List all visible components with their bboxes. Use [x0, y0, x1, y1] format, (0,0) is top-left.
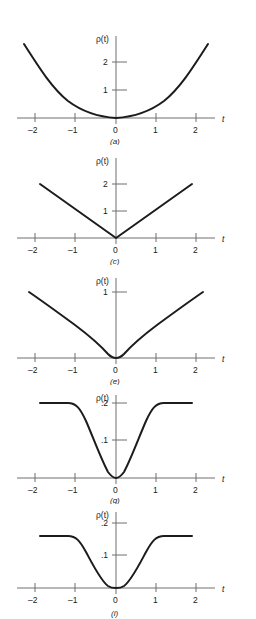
x-ticklabel-2-c: 2	[193, 245, 198, 255]
y-ticklabel-1-e: 1	[103, 287, 108, 297]
x-axis-label-e: t	[222, 354, 225, 364]
x-axis-label-i: t	[222, 584, 225, 594]
rho-functions-figure: ρ(t) t –2 –1 0 1 2 1 2 (a) ρ(t) t –2	[0, 0, 256, 619]
x-ticklabel-minus1-i: –1	[68, 595, 78, 605]
x-ticklabel-minus1-c: –1	[68, 245, 78, 255]
chart-panel-a: ρ(t) t –2 –1 0 1 2 1 2 (a)	[0, 0, 256, 145]
y-ticklabel-point2-i: .2	[101, 518, 108, 528]
x-ticklabel-minus2-a: –2	[28, 125, 38, 135]
x-ticklabel-minus1-a: –1	[68, 125, 78, 135]
x-axis-label-g: t	[222, 474, 225, 484]
x-ticklabel-2-e: 2	[193, 365, 198, 375]
x-ticklabel-1-e: 1	[153, 365, 158, 375]
y-axis-label-a: ρ(t)	[96, 34, 109, 44]
panel-caption-i: (i)	[111, 609, 118, 618]
x-ticklabel-1-a: 1	[153, 125, 158, 135]
chart-panel-g: ρ(t) t –2 –1 0 1 2 .1 .2 (g)	[0, 385, 256, 504]
x-ticklabel-minus2-c: –2	[28, 245, 38, 255]
x-ticklabel-1-c: 1	[153, 245, 158, 255]
x-ticklabel-2-g: 2	[193, 485, 198, 495]
x-ticklabel-0-e: 0	[113, 365, 118, 375]
x-axis-label-a: t	[222, 114, 225, 124]
panel-caption-e: (e)	[110, 377, 120, 385]
panel-caption-c: (c)	[110, 257, 120, 265]
panel-caption-g: (g)	[110, 496, 120, 504]
chart-panel-e: ρ(t) t –2 –1 0 1 2 1 (e)	[0, 265, 256, 385]
chart-panel-i: ρ(t) t –2 –1 0 1 2 .1 .2 (i)	[0, 504, 256, 619]
x-ticklabel-minus1-e: –1	[68, 365, 78, 375]
y-ticklabel-2-a: 2	[103, 57, 108, 67]
y-ticklabel-1-c: 1	[103, 206, 108, 216]
y-axis-label-e: ρ(t)	[96, 276, 109, 286]
chart-svg-i: ρ(t) t –2 –1 0 1 2 .1 .2 (i)	[0, 504, 256, 619]
chart-svg-c: ρ(t) t –2 –1 0 1 2 1 2 (c)	[0, 145, 256, 265]
x-ticklabel-minus2-e: –2	[28, 365, 38, 375]
panel-caption-a: (a)	[110, 137, 120, 145]
chart-svg-e: ρ(t) t –2 –1 0 1 2 1 (e)	[0, 265, 256, 385]
x-ticklabel-0-g: 0	[113, 485, 118, 495]
x-ticklabel-1-g: 1	[153, 485, 158, 495]
x-ticklabel-0-i: 0	[113, 595, 118, 605]
x-ticklabel-2-a: 2	[193, 125, 198, 135]
y-ticklabel-point1-i: .1	[101, 550, 108, 560]
chart-svg-g: ρ(t) t –2 –1 0 1 2 .1 .2 (g)	[0, 385, 256, 504]
x-ticklabel-minus1-g: –1	[68, 485, 78, 495]
y-ticklabel-point2-g: .2	[101, 398, 108, 408]
chart-panel-c: ρ(t) t –2 –1 0 1 2 1 2 (c)	[0, 145, 256, 265]
x-ticklabel-1-i: 1	[153, 595, 158, 605]
y-ticklabel-2-c: 2	[103, 179, 108, 189]
chart-svg-a: ρ(t) t –2 –1 0 1 2 1 2 (a)	[0, 0, 256, 145]
x-ticklabel-minus2-i: –2	[28, 595, 38, 605]
y-axis-label-c: ρ(t)	[96, 156, 109, 166]
x-ticklabel-minus2-g: –2	[28, 485, 38, 495]
x-ticklabel-0-a: 0	[113, 125, 118, 135]
y-ticklabel-1-a: 1	[103, 85, 108, 95]
x-ticklabel-2-i: 2	[193, 595, 198, 605]
x-ticklabel-0-c: 0	[113, 245, 118, 255]
x-axis-label-c: t	[222, 234, 225, 244]
y-ticklabel-point1-g: .1	[101, 435, 108, 445]
